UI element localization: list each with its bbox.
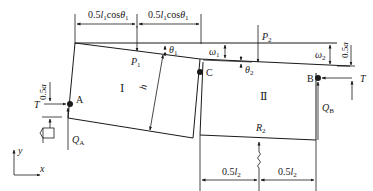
svg-text:θ2: θ2 <box>245 64 254 77</box>
force-R2: R2 <box>255 122 266 191</box>
block-II-top <box>200 59 350 66</box>
svg-text:ω1: ω1 <box>209 46 220 59</box>
coordinate-axes: y x <box>14 145 45 175</box>
svg-text:R2: R2 <box>255 122 266 135</box>
svg-text:QB: QB <box>322 102 334 115</box>
region-II-label: Ⅱ <box>260 90 267 102</box>
svg-text:0.5l2: 0.5l2 <box>222 166 241 179</box>
bottom-dimension: 0.5l2 0.5l2 <box>202 166 314 180</box>
svg-text:0.5a: 0.5a <box>340 42 350 58</box>
svg-text:C: C <box>206 67 213 78</box>
svg-text:y: y <box>17 145 23 156</box>
force-T-right: T <box>322 73 367 100</box>
svg-text:h: h <box>137 84 149 91</box>
force-QA: QA <box>68 108 84 150</box>
svg-text:T: T <box>360 73 367 84</box>
dim-top-left-label: 0.5l1cosθ1 <box>88 9 129 22</box>
top-dimension: 0.5l1cosθ1 0.5l1cosθ1 <box>75 9 201 44</box>
region-I-label: Ⅰ <box>120 82 124 94</box>
structural-diagram: 0.5l1cosθ1 0.5l1cosθ1 P1 P2 θ1 ω1 θ <box>0 0 373 191</box>
svg-text:P1: P1 <box>130 56 141 69</box>
force-P1: P1 <box>130 26 141 69</box>
angle-omega2: ω2 <box>315 45 330 64</box>
dim-offset-left: 0.5a <box>38 82 50 101</box>
force-QB: QB <box>318 82 334 140</box>
svg-text:0.5l2: 0.5l2 <box>278 166 297 179</box>
dim-offset-right: 0.5a <box>337 42 355 66</box>
node-B: B <box>307 73 321 84</box>
dim-top-right-label: 0.5l1cosθ1 <box>148 9 189 22</box>
support-icon <box>40 117 62 143</box>
angle-theta2: θ2 <box>241 56 254 77</box>
svg-text:A: A <box>76 94 84 105</box>
svg-text:P2: P2 <box>261 31 272 44</box>
dim-height-h: h <box>137 55 163 130</box>
svg-text:ω2: ω2 <box>315 49 326 62</box>
svg-text:0.5a: 0.5a <box>38 84 48 100</box>
svg-text:x: x <box>39 163 45 174</box>
svg-text:QA: QA <box>72 134 84 147</box>
svg-text:B: B <box>307 73 314 84</box>
